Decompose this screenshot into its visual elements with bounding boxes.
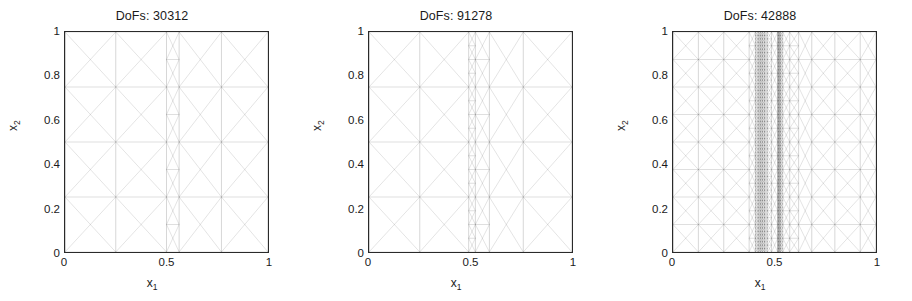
panel-title-2: DoFs: 42888: [608, 9, 912, 23]
plot-area-2: [672, 31, 877, 253]
x-axis-label-2: x1: [608, 276, 912, 292]
y-axis-ticks-1: 00.20.40.60.81: [324, 31, 364, 253]
x-tick-label: 1: [266, 256, 272, 268]
y-tick-label: 0: [24, 247, 60, 259]
panel-title-1: DoFs: 91278: [304, 9, 608, 23]
y-tick-label: 0.8: [632, 69, 668, 81]
y-tick-label: 0.4: [328, 158, 364, 170]
x-axis-label-1: x1: [304, 276, 608, 292]
y-tick-label: 0: [632, 247, 668, 259]
x-tick-label: 1: [570, 256, 576, 268]
x-axis-ticks-0: 00.51: [64, 256, 269, 272]
y-tick-label: 0.2: [328, 203, 364, 215]
y-tick-label: 0.8: [24, 69, 60, 81]
x-tick-label: 1: [874, 256, 880, 268]
mesh-panel-1: DoFs: 91278 00.20.40.60.81 00.51 x2 x1: [304, 0, 608, 301]
x-axis-label-0: x1: [0, 276, 304, 292]
x-tick-label: 0.5: [463, 256, 479, 268]
y-tick-label: 0.4: [24, 158, 60, 170]
mesh-svg-0: [65, 32, 268, 252]
mesh-panel-0: DoFs: 30312 00.20.40.60.81 00.51 x2 x1: [0, 0, 304, 301]
y-axis-label-1: x2: [310, 120, 326, 131]
y-tick-label: 0.6: [632, 114, 668, 126]
x-tick-label: 0: [61, 256, 67, 268]
y-tick-label: 0.2: [632, 203, 668, 215]
y-tick-label: 1: [24, 25, 60, 37]
y-tick-label: 0.6: [328, 114, 364, 126]
plot-area-0: [64, 31, 269, 253]
x-tick-label: 0: [669, 256, 675, 268]
y-axis-ticks-0: 00.20.40.60.81: [20, 31, 60, 253]
panel-title-0: DoFs: 30312: [0, 9, 304, 23]
y-tick-label: 0.4: [632, 158, 668, 170]
mesh-figure: DoFs: 30312 00.20.40.60.81 00.51 x2 x1 D…: [0, 0, 912, 301]
y-tick-label: 0: [328, 247, 364, 259]
mesh-svg-1: [369, 32, 572, 252]
y-axis-label-0: x2: [6, 120, 22, 131]
x-tick-label: 0: [365, 256, 371, 268]
y-tick-label: 0.2: [24, 203, 60, 215]
mesh-svg-2: [673, 32, 876, 252]
mesh-panel-2: DoFs: 42888 00.20.40.60.81 00.51 x2 x1: [608, 0, 912, 301]
y-tick-label: 0.6: [24, 114, 60, 126]
x-axis-ticks-2: 00.51: [672, 256, 877, 272]
x-tick-label: 0.5: [159, 256, 175, 268]
x-axis-ticks-1: 00.51: [368, 256, 573, 272]
y-axis-ticks-2: 00.20.40.60.81: [628, 31, 668, 253]
y-axis-label-2: x2: [614, 120, 630, 131]
y-tick-label: 1: [632, 25, 668, 37]
y-tick-label: 0.8: [328, 69, 364, 81]
y-tick-label: 1: [328, 25, 364, 37]
x-tick-label: 0.5: [767, 256, 783, 268]
plot-area-1: [368, 31, 573, 253]
